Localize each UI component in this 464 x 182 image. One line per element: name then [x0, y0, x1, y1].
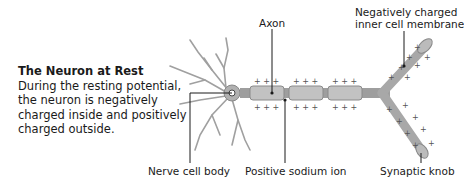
label-membrane-line2: inner cell membrane — [355, 18, 464, 30]
svg-text:+ + +: + + + — [293, 103, 318, 112]
svg-text:+: + — [386, 105, 393, 114]
svg-text:+ + +: + + + — [332, 77, 357, 86]
svg-text:+: + — [404, 129, 411, 138]
label-synaptic-knob: Synaptic knob — [380, 165, 455, 177]
svg-text:+: + — [406, 53, 413, 62]
svg-text:+ + +: + + + — [254, 77, 279, 86]
svg-text:+: + — [396, 117, 403, 126]
svg-text:+: + — [412, 113, 419, 122]
svg-text:+: + — [414, 43, 421, 52]
svg-text:+: + — [404, 73, 411, 82]
svg-text:+ + +: + + + — [293, 77, 318, 86]
label-membrane-line1: Negatively charged — [355, 6, 457, 18]
svg-text:+ + +: + + + — [332, 103, 357, 112]
label-cell-body: Nerve cell body — [148, 165, 230, 177]
svg-text:+: + — [428, 139, 435, 148]
svg-text:+: + — [420, 125, 427, 134]
svg-text:+: + — [412, 141, 419, 150]
label-axon: Axon — [259, 17, 285, 29]
svg-text:+ + +: + + + — [254, 103, 279, 112]
label-sodium-ion: Positive sodium ion — [245, 165, 347, 177]
svg-text:+: + — [424, 53, 431, 62]
svg-text:+: + — [388, 73, 395, 82]
svg-text:+: + — [414, 61, 421, 70]
svg-text:+: + — [402, 101, 409, 110]
